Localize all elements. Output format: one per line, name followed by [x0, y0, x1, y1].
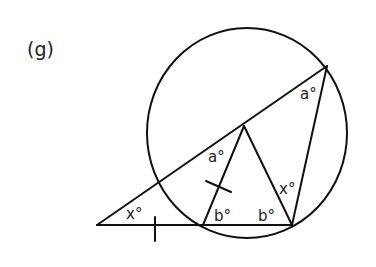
- angle-label-b-right: b°: [258, 207, 275, 225]
- equal-tick-side: [206, 181, 231, 192]
- angle-label-a-top: a°: [300, 85, 317, 103]
- angle-label-x-right: x°: [279, 180, 295, 198]
- angle-label-x-left: x°: [126, 205, 142, 223]
- angle-label-a-mid: a°: [208, 148, 225, 166]
- angle-label-b-left: b°: [214, 207, 231, 225]
- figure-label: (g): [27, 38, 54, 60]
- geometry-diagram: (g) a° a° x° b° b° x°: [0, 0, 376, 267]
